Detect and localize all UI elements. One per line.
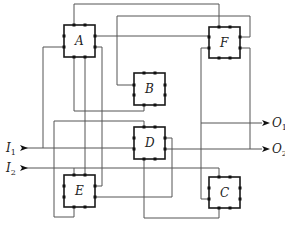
module-a: A: [63, 24, 97, 59]
module-b: B: [133, 72, 167, 107]
diagram-svg: A B C D E: [0, 0, 285, 225]
module-c: C: [208, 176, 242, 210]
circuit-diagram: A B C D E: [0, 0, 285, 225]
module-f-label: F: [219, 36, 229, 50]
wire-i2-c: [22, 168, 219, 177]
arrow-i1-icon: [20, 145, 28, 151]
module-f: F: [208, 26, 242, 60]
module-c-label: C: [220, 186, 229, 200]
arrow-i2-icon: [20, 165, 28, 171]
arrow-o2-icon: [262, 146, 270, 152]
output-o2-label: O2: [272, 142, 285, 158]
input-i2-label: I2: [5, 161, 16, 177]
input-i1-label: I1: [5, 141, 16, 157]
wire-f-o2: [240, 48, 250, 149]
module-b-label: B: [144, 82, 154, 96]
wire-a-e-right: [95, 47, 102, 186]
arrow-o1-icon: [262, 120, 270, 126]
module-e-label: E: [74, 184, 84, 198]
output-o1-label: O1: [272, 116, 285, 132]
module-e: E: [63, 174, 97, 209]
module-d-label: D: [144, 136, 155, 150]
module-d: D: [133, 126, 167, 161]
module-a-label: A: [74, 34, 84, 48]
